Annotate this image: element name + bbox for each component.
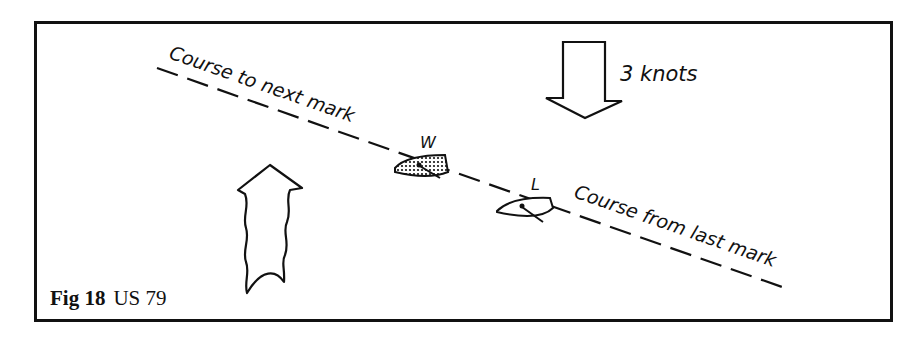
figure: Course to next mark Course from last mar… [0,0,918,338]
windward-boat-label: W [420,133,437,152]
current-speed-label: 3 knots [620,62,698,86]
figure-number: Fig 18 [50,286,105,310]
course-to-next-mark-label: Course to next mark [167,41,359,127]
figure-reference: US 79 [113,286,166,310]
leeward-boat-label: L [531,175,540,194]
boat-icon [497,198,553,222]
wavy-up-arrow-icon [238,165,302,293]
down-arrow-icon [546,42,622,118]
shaded-boat-icon [395,155,448,178]
figure-caption: Fig 18US 79 [50,286,167,311]
course-from-last-mark-label: Course from last mark [572,180,781,271]
